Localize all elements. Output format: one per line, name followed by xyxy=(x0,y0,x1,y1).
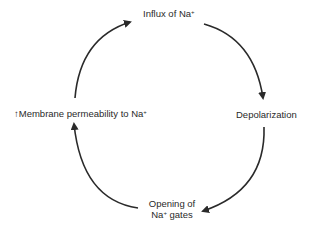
arrow-influx-to-depolarization xyxy=(204,24,263,98)
node-opening: Opening of Na+ gates xyxy=(143,198,201,220)
node-opening-gates: gates xyxy=(167,209,193,220)
node-influx: Influx of Na+ xyxy=(143,8,195,19)
node-permeability: ↑Membrane permeability to Na+ xyxy=(14,108,147,119)
superscript-plus: + xyxy=(143,109,147,115)
node-depolarization: Depolarization xyxy=(236,109,297,120)
arrow-opening-to-permeability xyxy=(74,124,138,208)
node-influx-text: Influx of Na xyxy=(143,8,191,19)
node-permeability-text: Membrane permeability to Na xyxy=(19,108,144,119)
node-opening-line2: Na+ gates xyxy=(143,209,201,220)
superscript-plus: + xyxy=(191,9,195,15)
node-opening-na: Na xyxy=(151,209,163,220)
arrow-permeability-to-influx xyxy=(75,22,130,98)
diagram-canvas: Influx of Na+ Depolarization Opening of … xyxy=(0,0,312,234)
node-opening-line1: Opening of xyxy=(143,198,201,209)
arrow-depolarization-to-opening xyxy=(203,127,264,211)
node-depolarization-text: Depolarization xyxy=(236,109,297,120)
